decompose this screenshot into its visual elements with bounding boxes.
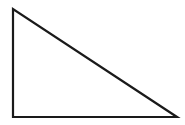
right-triangle-diagram xyxy=(0,0,185,125)
right-triangle-shape xyxy=(13,9,177,117)
diagram-canvas xyxy=(0,0,185,125)
